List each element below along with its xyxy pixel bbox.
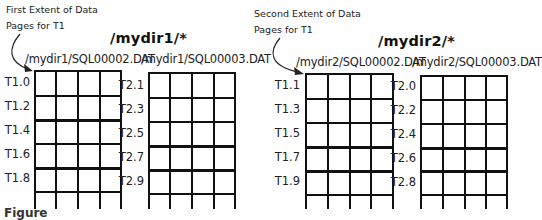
row-label: T2.5 [114, 126, 144, 140]
row-label: T2.4 [386, 127, 416, 141]
page-grid-mydir2-sql00003 [420, 75, 508, 209]
row-label: T1.4 [0, 123, 30, 137]
row-label: T1.9 [270, 174, 300, 188]
row-label: T2.2 [386, 103, 416, 117]
page-grid-mydir2-sql00002 [305, 73, 394, 209]
figure-caption: Figure [4, 206, 48, 220]
row-label: T1.1 [270, 78, 300, 92]
dir-title-mydir2: /mydir2/* [378, 33, 455, 49]
file-label-mydir2-sql00003: /mydir2/SQL00003.DAT [412, 55, 542, 69]
file-label-mydir2-sql00002: /mydir2/SQL00002.DAT [296, 55, 426, 69]
row-label: T1.3 [270, 102, 300, 116]
row-label: T2.0 [386, 79, 416, 93]
row-label: T2.8 [386, 175, 416, 189]
row-label: T2.7 [114, 150, 144, 164]
row-label: T1.5 [270, 126, 300, 140]
row-label: T2.1 [114, 78, 144, 92]
row-label: T1.8 [0, 171, 30, 185]
row-label: T2.3 [114, 102, 144, 116]
file-label-mydir1-sql00003: /mydir1/SQL00003.DAT [141, 52, 271, 66]
file-label-mydir1-sql00002: /mydir1/SQL00002.DAT [25, 52, 155, 66]
row-label: T1.0 [0, 75, 30, 89]
row-label: T2.6 [386, 151, 416, 165]
page-grid-mydir1-sql00002 [34, 70, 122, 209]
row-label: T1.6 [0, 147, 30, 161]
row-label: T2.9 [114, 174, 144, 188]
row-label: T1.2 [0, 99, 30, 113]
dir-title-mydir1: /mydir1/* [110, 30, 187, 46]
first-extent-arrow-icon [0, 0, 40, 80]
row-label: T1.7 [270, 150, 300, 164]
page-grid-mydir1-sql00003 [148, 72, 236, 209]
